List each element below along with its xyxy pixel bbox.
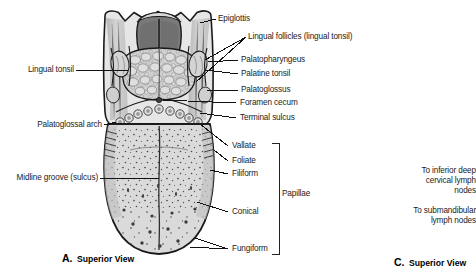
note-inferior-deep-cervical-lymph-nodes: To inferior deep cervical lymph nodes — [386, 166, 476, 196]
note-line-2: cervical lymph — [386, 176, 476, 186]
caption-panel-c-letter: C. — [394, 256, 405, 268]
caption-panel-a: A. Superior View — [62, 248, 134, 266]
note-line-1: To submandibular — [386, 206, 476, 216]
label-palatoglossal-arch: Palatoglossal arch — [0, 120, 102, 130]
label-filiform: Filiform — [232, 169, 258, 179]
note-line-1: To inferior deep — [386, 166, 476, 176]
label-palatopharyngeus: Palatopharyngeus — [241, 55, 305, 65]
caption-panel-a-letter: A. — [62, 252, 73, 264]
label-conical: Conical — [232, 207, 258, 217]
caption-panel-c-text: Superior View — [409, 258, 466, 268]
label-epiglottis: Epiglottis — [218, 14, 250, 24]
note-submandibular-lymph-nodes: To submandibular lymph nodes — [386, 206, 476, 226]
note-line-3: nodes — [386, 186, 476, 196]
label-foramen-cecum: Foramen cecum — [240, 98, 298, 108]
tongue-superior-view-illustration — [0, 0, 476, 278]
label-terminal-sulcus: Terminal sulcus — [240, 113, 295, 123]
figure-root: Lingual tonsil Palatoglossal arch Midlin… — [0, 0, 476, 278]
label-foliate: Foliate — [232, 156, 256, 166]
caption-panel-c: C. Superior View — [394, 252, 466, 270]
label-papillae-group: Papillae — [282, 189, 310, 199]
papillae-bracket — [272, 143, 280, 255]
label-fungiform: Fungiform — [232, 244, 268, 254]
label-palatine-tonsil: Palatine tonsil — [241, 69, 290, 79]
label-vallate: Vallate — [232, 141, 256, 151]
note-line-2: lymph nodes — [386, 216, 476, 226]
label-lingual-follicles: Lingual follicles (lingual tonsil) — [248, 32, 352, 42]
label-lingual-tonsil: Lingual tonsil — [0, 65, 74, 75]
label-midline-groove: Midline groove (sulcus) — [0, 173, 98, 183]
caption-panel-a-text: Superior View — [77, 254, 134, 264]
label-palatoglossus: Palatoglossus — [241, 85, 290, 95]
